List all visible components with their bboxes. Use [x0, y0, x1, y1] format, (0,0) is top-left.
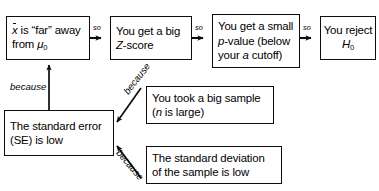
box-xbar-far-line2-pre: from [12, 38, 37, 50]
mu-subscript: 0 [43, 43, 47, 52]
box-reject-h0: You reject H0 [320, 16, 376, 60]
box-low-standard-deviation: The standard deviation of the sample is … [146, 146, 282, 184]
label-so-1: so [93, 24, 101, 32]
box-big-sample-line1: You took a big sample [152, 91, 269, 105]
box-low-sd-line1: The standard deviation [152, 151, 277, 165]
box-small-p-line2: p-value (below [218, 34, 295, 48]
box-small-p-line3-pre: your [218, 49, 243, 61]
z-symbol: Z [116, 39, 123, 51]
box-big-z-line2: Z-score [116, 38, 187, 52]
box-small-p-line3-post: cutoff) [249, 49, 282, 61]
label-so-2: so [195, 24, 203, 32]
box-big-sample-line2-post: is large) [162, 106, 204, 118]
label-because-vertical: because [10, 82, 46, 92]
box-xbar-far-line1: x is “far” away [12, 23, 85, 37]
box-reject-h0-line2: H0 [342, 37, 354, 53]
box-big-z-line2-post: -score [123, 39, 154, 51]
h-subscript: 0 [350, 43, 354, 52]
box-standard-error: The standard error (SE) is low [4, 110, 114, 156]
box-xbar-far-line1-text: is “far” away [18, 24, 81, 36]
box-small-p-line3: your a cutoff) [218, 48, 295, 62]
box-small-p-line1: You get a small [218, 19, 295, 33]
box-xbar-far: x is “far” away from μ0 [6, 16, 90, 60]
label-so-3: so [303, 24, 311, 32]
box-big-z-line1: You get a big [116, 24, 187, 38]
box-standard-error-line2: (SE) is low [10, 133, 109, 147]
box-big-sample-line2: (n is large) [152, 105, 269, 119]
box-low-sd-line2: of the sample is low [152, 165, 277, 179]
box-xbar-far-line2: from μ0 [12, 37, 85, 53]
box-small-p-line2-post: -value (below [224, 35, 290, 47]
label-because-sd: because [114, 148, 145, 182]
x-bar-symbol: x [12, 23, 18, 37]
box-small-p-value: You get a small p-value (below your a cu… [212, 14, 300, 68]
box-big-z-score: You get a big Z-score [110, 16, 192, 60]
box-big-sample: You took a big sample (n is large) [146, 86, 274, 124]
flowchart-diagram: x is “far” away from μ0 You get a big Z-… [0, 0, 379, 191]
h-symbol: H [342, 38, 350, 50]
box-reject-h0-line1: You reject [324, 23, 373, 37]
box-standard-error-line1: The standard error [10, 119, 109, 133]
